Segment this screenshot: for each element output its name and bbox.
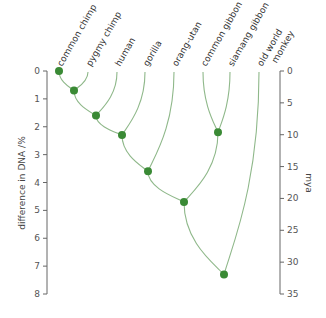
tree-node [214,128,222,136]
branch [184,202,224,274]
branch [96,72,117,116]
left-tick-label: 7 [34,261,40,271]
tree-node [118,131,126,139]
tree-node [55,67,63,75]
left-tick-label: 8 [34,289,40,299]
right-tick-label: 5 [287,98,293,108]
left-tick-label: 2 [34,122,40,132]
tree-node [70,87,78,95]
right-tick-label: 20 [287,193,299,203]
leaf-label-human: human [113,36,137,68]
right-tick-label: 0 [287,66,293,76]
tree-branches [59,71,259,274]
right-axis-title: mya [304,173,314,193]
tree-node [220,270,228,278]
right-tick-label: 15 [287,162,298,172]
branch [148,171,184,202]
left-tick-label: 3 [34,150,40,160]
leaf-label-gorilla: gorilla [141,39,164,68]
left-tick-label: 5 [34,205,40,215]
right-tick-label: 25 [287,225,298,235]
left-tick-label: 1 [34,94,40,104]
branch [203,72,218,132]
branch [122,135,148,171]
leaf-label-orang-utan: orang-utan [170,20,204,68]
branch [218,72,230,132]
right-tick-label: 30 [287,257,299,267]
right-tick-label: 35 [287,289,298,299]
branch [224,72,259,274]
branch [184,132,218,202]
left-tick-label: 6 [34,233,40,243]
tree-node [144,167,152,175]
left-tick-label: 4 [34,178,40,188]
branch [74,91,96,116]
branch [122,72,145,135]
right-tick-label: 10 [287,130,299,140]
leaf-labels: common chimppygmy chimphumangorillaorang… [55,0,296,74]
left-axis-title: difference in DNA /% [17,136,27,230]
left-tick-label: 0 [34,66,40,76]
tree-node [180,198,188,206]
branch [96,116,122,136]
branch [148,72,174,171]
tree-node [92,112,100,120]
left-axis: 012345678 [34,66,47,299]
phylogenetic-tree-chart: 012345678 05101520253035 difference in D… [0,0,326,318]
right-axis: 05101520253035 [280,66,299,299]
